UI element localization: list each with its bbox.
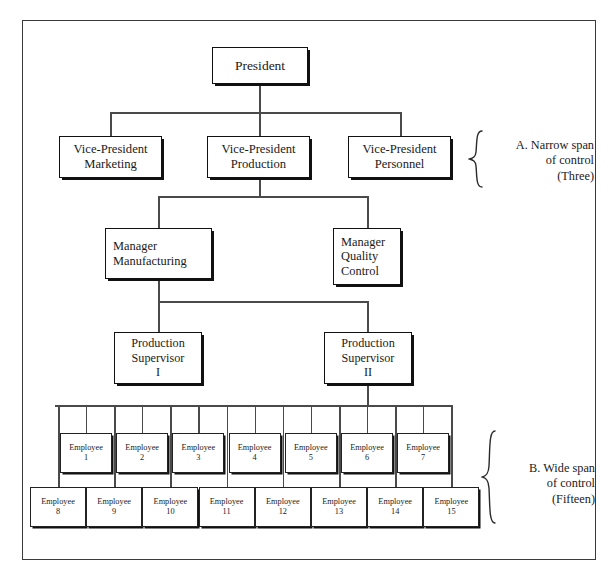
connector-manager-drop-1 xyxy=(158,196,160,228)
employee-number: 2 xyxy=(140,453,144,463)
node-employee-14[interactable]: Employee14 xyxy=(367,487,423,527)
connector-vp-bus xyxy=(110,112,401,114)
node-vp-marketing-line1: Vice-President xyxy=(73,142,147,157)
node-manager-quality-line3: Control xyxy=(341,264,379,279)
connector-supervisor-bus xyxy=(158,301,368,303)
connector-employee-drop-4 xyxy=(255,405,256,433)
connector-president-stem xyxy=(259,84,261,113)
node-vice-president-personnel[interactable]: Vice-President Personnel xyxy=(348,136,451,178)
connector-manager-drop-2 xyxy=(367,196,369,228)
annotation-a-line2: of control xyxy=(470,153,594,168)
employee-label: Employee xyxy=(154,497,188,507)
connector-supervisor-drop-2 xyxy=(367,301,369,332)
node-supervisor-1-line2: Supervisor xyxy=(132,351,185,365)
node-employee-6[interactable]: Employee6 xyxy=(341,433,393,473)
employee-label: Employee xyxy=(350,443,384,453)
annotation-b-line2: of control xyxy=(475,476,595,491)
node-manager-quality-line2: Quality xyxy=(341,249,378,264)
employee-label: Employee xyxy=(266,497,300,507)
connector-vp-production-stem xyxy=(259,178,261,197)
node-vp-marketing-line2: Marketing xyxy=(84,157,136,172)
connector-supervisor-2-stem xyxy=(367,384,369,405)
employee-label: Employee xyxy=(322,497,356,507)
node-supervisor-1-line3: I xyxy=(156,365,160,379)
node-supervisor-2-line1: Production xyxy=(341,336,395,350)
employee-number: 12 xyxy=(279,507,287,517)
node-manager-quality-control[interactable]: Manager Quality Control xyxy=(333,228,401,285)
node-manager-manufacturing-line1: Manager xyxy=(113,239,157,254)
node-supervisor-2-line2: Supervisor xyxy=(342,351,395,365)
connector-vp-drop-1 xyxy=(110,112,112,136)
employee-number: 11 xyxy=(223,507,231,517)
node-production-supervisor-1[interactable]: Production Supervisor I xyxy=(114,332,202,384)
connector-employee-drop-1 xyxy=(86,405,87,433)
node-employee-1[interactable]: Employee1 xyxy=(60,433,112,473)
node-employee-11[interactable]: Employee11 xyxy=(199,487,255,527)
node-employee-7[interactable]: Employee7 xyxy=(397,433,449,473)
node-manager-manufacturing-line2: Manufacturing xyxy=(113,254,187,269)
employee-label: Employee xyxy=(125,443,159,453)
connector-supervisor-drop-1 xyxy=(158,301,160,332)
annotation-wide-span: B. Wide span of control (Fifteen) xyxy=(475,461,595,507)
node-employee-10[interactable]: Employee10 xyxy=(142,487,198,527)
node-production-supervisor-2[interactable]: Production Supervisor II xyxy=(324,332,412,384)
connector-employee-drop-5 xyxy=(311,405,312,433)
employee-number: 7 xyxy=(421,453,425,463)
annotation-b-line1: B. Wide span xyxy=(475,461,595,476)
employee-number: 9 xyxy=(112,507,116,517)
node-employee-5[interactable]: Employee5 xyxy=(285,433,337,473)
annotation-narrow-span: A. Narrow span of control (Three) xyxy=(470,138,594,184)
connector-employee-drop-3 xyxy=(198,405,199,433)
node-supervisor-1-line1: Production xyxy=(131,336,185,350)
connector-employee-drop-6 xyxy=(367,405,368,433)
annotation-a-line1: A. Narrow span xyxy=(470,138,594,153)
node-employee-2[interactable]: Employee2 xyxy=(116,433,168,473)
annotation-a-line3: (Three) xyxy=(470,169,594,184)
node-vice-president-production[interactable]: Vice-President Production xyxy=(207,136,310,178)
connector-vp-drop-3 xyxy=(400,112,402,136)
employee-number: 8 xyxy=(56,507,60,517)
employee-label: Employee xyxy=(41,497,75,507)
employee-number: 4 xyxy=(253,453,257,463)
node-employee-12[interactable]: Employee12 xyxy=(255,487,311,527)
employee-number: 5 xyxy=(309,453,313,463)
node-supervisor-2-line3: II xyxy=(364,365,372,379)
node-vp-personnel-line2: Personnel xyxy=(375,157,425,172)
employee-label: Employee xyxy=(294,443,328,453)
node-president[interactable]: President xyxy=(212,47,308,84)
employee-label: Employee xyxy=(406,443,440,453)
node-employee-13[interactable]: Employee13 xyxy=(311,487,367,527)
connector-vp-drop-2 xyxy=(259,112,261,136)
node-vp-production-line1: Vice-President xyxy=(221,142,295,157)
employee-label: Employee xyxy=(210,497,244,507)
employee-label: Employee xyxy=(435,497,469,507)
connector-manager-bus xyxy=(158,196,368,198)
connector-employee-drop-7 xyxy=(423,405,424,433)
node-employee-4[interactable]: Employee4 xyxy=(229,433,281,473)
employee-number: 15 xyxy=(447,507,455,517)
node-vp-production-line2: Production xyxy=(231,157,286,172)
node-manager-manufacturing[interactable]: Manager Manufacturing xyxy=(105,228,212,279)
employee-label: Employee xyxy=(378,497,412,507)
connector-manager-manufacturing-stem xyxy=(158,279,160,302)
employee-number: 10 xyxy=(166,507,174,517)
employee-label: Employee xyxy=(238,443,272,453)
employee-number: 6 xyxy=(365,453,369,463)
node-employee-15[interactable]: Employee15 xyxy=(423,487,479,527)
node-employee-3[interactable]: Employee3 xyxy=(172,433,224,473)
connector-employee-drop-2 xyxy=(142,405,143,433)
employee-number: 14 xyxy=(391,507,399,517)
node-vice-president-marketing[interactable]: Vice-President Marketing xyxy=(59,136,162,178)
employee-label: Employee xyxy=(182,443,216,453)
employee-number: 13 xyxy=(335,507,343,517)
connector-employee-drop-15 xyxy=(451,405,453,487)
node-employee-9[interactable]: Employee9 xyxy=(86,487,142,527)
employee-number: 1 xyxy=(84,453,88,463)
node-manager-quality-line1: Manager xyxy=(341,235,385,250)
node-vp-personnel-line1: Vice-President xyxy=(362,142,436,157)
employee-label: Employee xyxy=(69,443,103,453)
employee-number: 3 xyxy=(196,453,200,463)
node-employee-8[interactable]: Employee8 xyxy=(30,487,86,527)
annotation-b-line3: (Fifteen) xyxy=(475,492,595,507)
employee-label: Employee xyxy=(97,497,131,507)
